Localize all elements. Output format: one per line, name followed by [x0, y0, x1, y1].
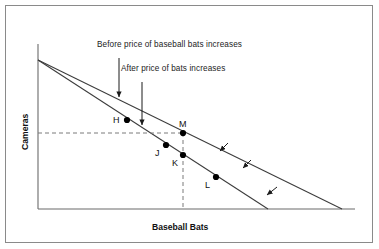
- marker-k: [180, 152, 186, 158]
- figure-canvas: Before price of baseball bats increases …: [0, 0, 379, 249]
- original-budget-line: [38, 60, 342, 209]
- shift-arrow-1: [220, 143, 228, 151]
- shifted-budget-line: [38, 60, 268, 209]
- before-label: Before price of baseball bats increases: [97, 40, 242, 49]
- point-label-h: H: [113, 115, 120, 125]
- point-label-k: K: [172, 158, 178, 168]
- marker-m: [180, 130, 186, 136]
- point-label-j: J: [155, 148, 160, 158]
- point-label-m: M: [179, 119, 187, 129]
- marker-l: [213, 174, 219, 180]
- x-axis-label: Baseball Bats: [152, 222, 208, 232]
- shift-arrow-3: [267, 187, 277, 195]
- after-label: After price of bats increases: [121, 64, 225, 73]
- y-axis-label: Cameras: [20, 114, 30, 150]
- marker-j: [163, 142, 169, 148]
- marker-h: [124, 117, 130, 123]
- point-label-l: L: [205, 180, 210, 190]
- plot-area: [0, 0, 379, 249]
